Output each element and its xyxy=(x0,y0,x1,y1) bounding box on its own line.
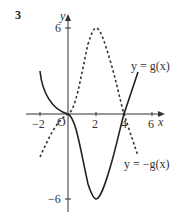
curve-g xyxy=(40,71,138,199)
x-tick-2: 2 xyxy=(92,117,98,131)
x-tick-6: 6 xyxy=(148,117,154,131)
y-axis-arrow-icon xyxy=(65,14,71,21)
axes xyxy=(26,14,165,212)
y-tick-6: 6 xyxy=(55,21,61,35)
curve-neg-g-label: y = −g(x) xyxy=(124,157,170,171)
curve-g-label: y = g(x) xyxy=(131,59,170,73)
x-tick-4: 4 xyxy=(121,117,127,131)
y-tick-neg6: −6 xyxy=(48,192,61,206)
origin-label: O xyxy=(57,115,66,129)
curve-neg-g xyxy=(40,28,138,157)
x-axis-label: x xyxy=(157,115,164,129)
graph: y x O −2 2 4 6 6 −6 y = g(x) y = −g(x) xyxy=(0,0,171,218)
x-tick-neg2: −2 xyxy=(32,117,45,131)
